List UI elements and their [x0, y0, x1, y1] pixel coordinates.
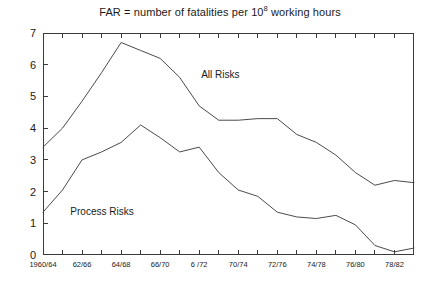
series-line-all-risks: [43, 43, 414, 186]
x-tick-label: 64/68: [112, 260, 131, 269]
x-tick-label: 66/70: [151, 260, 170, 269]
y-tick-label: 5: [8, 90, 36, 102]
y-tick-label: 1: [8, 217, 36, 229]
chart-title-suffix: working hours: [268, 6, 341, 18]
y-tick-label: 3: [8, 154, 36, 166]
x-tick-label: 74/78: [307, 260, 326, 269]
series-annotation: All Risks: [201, 69, 239, 80]
chart-title: FAR = number of fatalities per 108 worki…: [0, 6, 440, 18]
x-tick-label: 78/82: [385, 260, 404, 269]
y-tick-label: 7: [8, 27, 36, 39]
series-line-process-risks: [43, 125, 414, 252]
x-tick-label: 62/66: [73, 260, 92, 269]
x-tick-label: 6 /72: [191, 260, 208, 269]
chart-title-prefix: FAR = number of fatalities per 10: [99, 6, 263, 18]
x-tick-label: 1960/64: [29, 260, 56, 269]
x-tick-label: 76/80: [346, 260, 365, 269]
series-annotation: Process Risks: [70, 206, 133, 217]
y-tick-label: 6: [8, 59, 36, 71]
x-tick-label: 72/76: [268, 260, 287, 269]
y-tick-label: 4: [8, 122, 36, 134]
tick-marks: [43, 33, 394, 255]
x-tick-label: 70/74: [229, 260, 248, 269]
far-line-chart: FAR = number of fatalities per 108 worki…: [0, 0, 440, 286]
plot-area: [43, 33, 414, 255]
y-tick-label: 2: [8, 186, 36, 198]
